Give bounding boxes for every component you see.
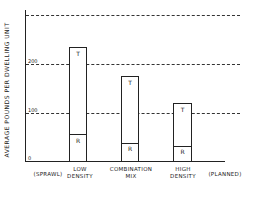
segment-divider: [70, 134, 86, 135]
category-label-line1: LOW: [64, 166, 96, 173]
segment-label-r: R: [122, 145, 138, 152]
annotation-planned: (PLANNED): [205, 171, 245, 178]
segment-divider: [122, 143, 138, 144]
bar-high-density: T R: [173, 103, 192, 162]
segment-label-r: R: [174, 148, 191, 155]
segment-label-t: T: [70, 50, 86, 57]
category-label-line2: MIX: [108, 173, 154, 180]
category-label-line2: DENSITY: [167, 173, 199, 180]
y-axis: [25, 10, 26, 162]
y-tick-0: 0: [28, 155, 31, 161]
segment-label-r: R: [70, 137, 86, 144]
bar-low-density: T R: [69, 47, 87, 162]
annotation-sprawl: (SPRAWL): [30, 171, 66, 178]
bar-combination-mix: T R: [121, 76, 139, 162]
gridline-200: [26, 64, 240, 65]
category-label-line1: HIGH: [167, 166, 199, 173]
y-tick-200: 200: [28, 58, 38, 64]
segment-label-t: T: [122, 79, 138, 86]
category-combination-mix: COMBINATION MIX: [108, 166, 154, 180]
category-high-density: HIGH DENSITY: [167, 166, 199, 180]
y-tick-100: 100: [28, 107, 38, 113]
segment-divider: [174, 146, 191, 147]
segment-label-t: T: [174, 106, 191, 113]
category-low-density: LOW DENSITY: [64, 166, 96, 180]
gridline-300: [26, 15, 240, 16]
y-axis-label: AVERAGE POUNDS PER DWELLING UNIT: [3, 20, 10, 160]
category-label-line1: COMBINATION: [108, 166, 154, 173]
category-label-line2: DENSITY: [64, 173, 96, 180]
